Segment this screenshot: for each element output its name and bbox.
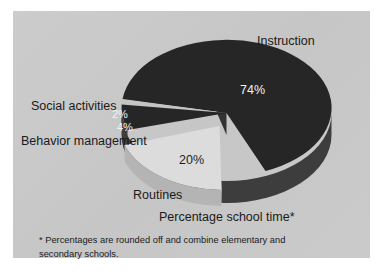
pie-value-routines: 20%: [179, 153, 204, 167]
pie-label-routines: Routines: [133, 188, 182, 202]
pie-value-behavior-management: 4%: [117, 121, 133, 133]
pie-label-behavior-management: Behavior management: [21, 134, 103, 148]
pie-label-social-activities: Social activities: [31, 99, 103, 113]
chart-panel: 74% 20% 4% 2% Instruction Social activit…: [13, 11, 370, 258]
chart-footnote: * Percentages are rounded off and combin…: [39, 233, 299, 262]
pie-value-instruction: 74%: [240, 83, 265, 97]
pie-label-instruction: Instruction: [257, 34, 315, 48]
chart-caption: Percentage school time*: [159, 210, 295, 224]
figure-container: 74% 20% 4% 2% Instruction Social activit…: [0, 0, 383, 277]
